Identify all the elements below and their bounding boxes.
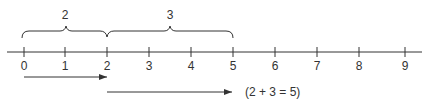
tick-label: 7 [314,59,321,73]
brace-3 [107,26,233,38]
brace-2 [22,26,107,38]
tick-label: 1 [62,59,69,73]
tick-label: 2 [104,59,111,73]
tick-label: 4 [188,59,195,73]
equation-label: (2 + 3 = 5) [245,85,300,99]
tick-label: 0 [21,59,28,73]
tick-label: 5 [230,59,237,73]
tick-label: 6 [272,59,279,73]
brace-label-3: 3 [167,8,174,22]
tick-label: 9 [402,59,409,73]
number-line-diagram: 0123456789 2 3 (2 + 3 = 5) [0,0,432,102]
tick-label: 3 [146,59,153,73]
tick-label: 8 [356,59,363,73]
brace-label-2: 2 [62,8,69,22]
